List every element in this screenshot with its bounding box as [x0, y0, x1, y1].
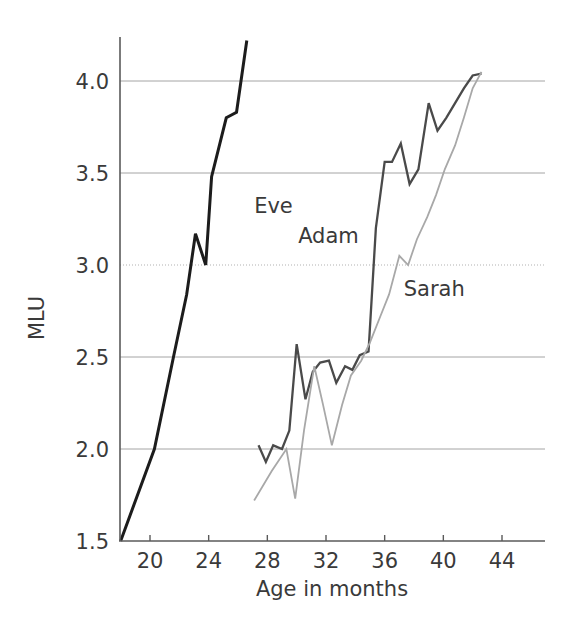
y-tick-label-2.0: 2.0 [76, 438, 109, 462]
y-axis-tick-labels: 1.52.02.53.03.54.0 [76, 70, 109, 554]
x-axis-ticks [150, 535, 502, 541]
series-label-adam: Adam [298, 224, 359, 248]
y-tick-label-3.0: 3.0 [76, 254, 109, 278]
x-tick-label-40: 40 [430, 549, 457, 573]
x-axis-tick-labels: 20242832364044 [137, 549, 516, 573]
x-tick-label-20: 20 [137, 549, 164, 573]
series-line-adam [259, 74, 482, 462]
y-tick-label-3.5: 3.5 [76, 162, 109, 186]
series-label-sarah: Sarah [404, 277, 465, 301]
series-inline-labels: EveAdamSarah [254, 194, 465, 301]
gridlines [120, 81, 545, 449]
mlu-age-line-chart: 20242832364044 1.52.02.53.03.54.0 EveAda… [0, 0, 570, 634]
x-tick-label-32: 32 [313, 549, 340, 573]
series-line-eve [121, 41, 247, 541]
chart-canvas: 20242832364044 1.52.02.53.03.54.0 EveAda… [0, 0, 570, 634]
x-tick-label-36: 36 [371, 549, 398, 573]
y-tick-label-4.0: 4.0 [76, 70, 109, 94]
x-tick-label-28: 28 [254, 549, 281, 573]
x-tick-label-44: 44 [489, 549, 516, 573]
x-axis-title: Age in months [256, 577, 408, 601]
y-tick-label-1.5: 1.5 [76, 530, 109, 554]
series-label-eve: Eve [254, 194, 293, 218]
x-tick-label-24: 24 [195, 549, 222, 573]
y-axis-title: MLU [25, 296, 49, 340]
y-tick-label-2.5: 2.5 [76, 346, 109, 370]
